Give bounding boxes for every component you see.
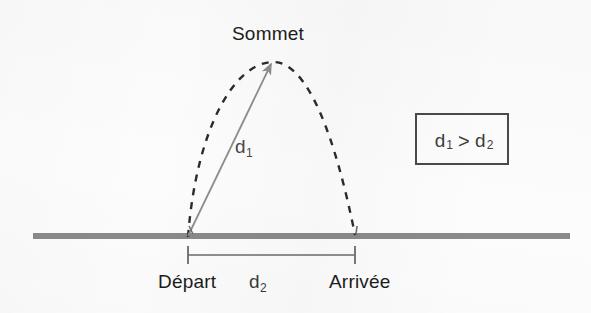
comparison-right-symbol: d xyxy=(475,130,486,152)
ground-line xyxy=(33,233,570,239)
comparison-left-subscript: 1 xyxy=(446,138,453,152)
d1-label: d1 xyxy=(235,137,252,156)
start-label: Départ xyxy=(158,272,216,291)
d2-subscript: 2 xyxy=(260,281,267,295)
d2-label: d2 xyxy=(249,272,266,291)
comparison-expression: d1>d2 xyxy=(417,115,511,167)
comparison-box: d1>d2 xyxy=(415,113,509,165)
end-label: Arrivée xyxy=(329,272,391,291)
apex-label: Sommet xyxy=(232,24,304,43)
arrival-tick-upper xyxy=(356,226,357,234)
greater-than-icon: > xyxy=(458,130,470,153)
d1-subscript: 1 xyxy=(246,146,253,160)
trajectory-path xyxy=(188,62,355,237)
d1-symbol: d xyxy=(235,136,246,157)
comparison-right-subscript: 2 xyxy=(487,138,494,152)
comparison-left-symbol: d xyxy=(435,130,446,152)
diagram-canvas: Sommet Départ Arrivée d1 d2 d1>d2 xyxy=(0,0,591,313)
d2-symbol: d xyxy=(249,271,260,292)
